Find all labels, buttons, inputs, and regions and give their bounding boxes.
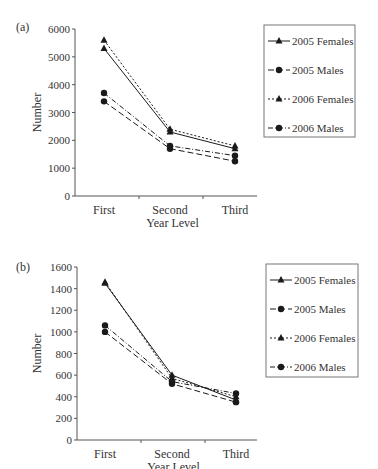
chart-panel-a: (a)0100020003000400050006000FirstSecondT… <box>0 0 378 240</box>
y-tick-label: 0 <box>67 434 73 446</box>
legend-label: 2006 Females <box>294 332 355 344</box>
x-category-label: First <box>94 447 117 461</box>
y-tick-label: 5000 <box>48 51 71 63</box>
circle-marker-icon <box>167 143 173 149</box>
circle-marker-icon <box>101 98 107 104</box>
y-tick-label: 3000 <box>48 107 71 119</box>
legend: 2005 Females2005 Males2006 Females2006 M… <box>266 264 358 377</box>
circle-marker-icon <box>276 125 282 131</box>
triangle-marker-icon <box>102 278 109 285</box>
y-tick-label: 1400 <box>50 283 73 295</box>
circle-marker-icon <box>102 329 108 335</box>
panel-label: (b) <box>16 260 30 274</box>
circle-marker-icon <box>102 322 108 328</box>
legend-label: 2005 Males <box>292 64 344 76</box>
circle-marker-icon <box>233 390 239 396</box>
circle-marker-icon <box>101 90 107 96</box>
series-2006-females <box>101 36 239 148</box>
x-category-label: Second <box>154 447 189 461</box>
line-chart-a: (a)0100020003000400050006000FirstSecondT… <box>0 0 378 240</box>
series-2006-males <box>101 90 238 159</box>
circle-marker-icon <box>278 364 284 370</box>
y-tick-label: 0 <box>65 190 71 202</box>
y-tick-label: 1200 <box>50 304 73 316</box>
x-category-label: Third <box>223 447 250 461</box>
legend-label: 2005 Males <box>294 303 346 315</box>
x-category-label: Third <box>222 203 249 217</box>
x-category-label: First <box>93 203 116 217</box>
circle-marker-icon <box>232 158 238 164</box>
triangle-marker-icon <box>101 36 108 43</box>
y-tick-label: 4000 <box>48 79 71 91</box>
legend-label: 2006 Females <box>292 93 353 105</box>
legend: 2005 Females2005 Males2006 Females2006 M… <box>264 25 355 137</box>
series-2005-females <box>101 44 239 151</box>
y-tick-label: 2000 <box>48 134 71 146</box>
legend-label: 2006 Males <box>292 122 344 134</box>
line-chart-b: (b)02004006008001000120014001600FirstSec… <box>0 250 378 469</box>
series-line <box>105 332 236 402</box>
triangle-marker-icon <box>101 44 108 51</box>
x-axis-title: Year Level <box>146 216 199 230</box>
circle-marker-icon <box>278 306 284 312</box>
legend-label: 2006 Males <box>294 361 346 373</box>
circle-marker-icon <box>276 67 282 73</box>
y-tick-label: 1000 <box>48 162 71 174</box>
panel-label: (a) <box>16 20 29 34</box>
circle-marker-icon <box>232 152 238 158</box>
circle-marker-icon <box>233 399 239 405</box>
y-tick-label: 1000 <box>50 326 73 338</box>
y-tick-label: 800 <box>56 348 73 360</box>
legend-label: 2005 Females <box>294 274 355 286</box>
y-axis-title: Number <box>30 334 44 373</box>
y-axis-title: Number <box>30 93 44 132</box>
chart-panel-b: (b)02004006008001000120014001600FirstSec… <box>0 250 378 469</box>
x-category-label: Second <box>152 203 187 217</box>
y-tick-label: 6000 <box>48 23 71 35</box>
circle-marker-icon <box>169 378 175 384</box>
y-tick-label: 600 <box>56 369 73 381</box>
triangle-marker-icon <box>232 142 239 149</box>
x-axis-title: Year Level <box>147 460 200 469</box>
y-tick-label: 400 <box>56 391 73 403</box>
legend-label: 2005 Females <box>292 35 353 47</box>
y-tick-label: 1600 <box>50 261 73 273</box>
y-tick-label: 200 <box>56 412 73 424</box>
